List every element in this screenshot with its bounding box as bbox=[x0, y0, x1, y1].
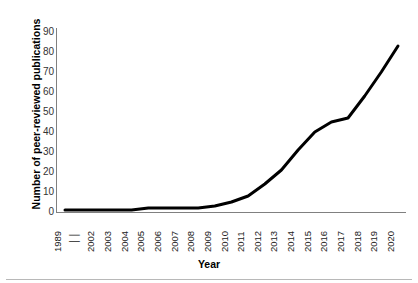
x-tick-label: 2017 bbox=[335, 218, 346, 252]
y-tick-label: 80 bbox=[32, 47, 54, 57]
y-tick-label: 60 bbox=[32, 87, 54, 97]
x-tick-label: 2009 bbox=[202, 218, 213, 252]
y-tick-label: 70 bbox=[32, 67, 54, 77]
x-tick-label: 2012 bbox=[252, 218, 263, 252]
x-tick-label: 1989 bbox=[52, 218, 63, 252]
x-tick-label: 2006 bbox=[152, 218, 163, 252]
x-axis-tick-labels: 1989││2002200320042005200620072008200920… bbox=[0, 214, 418, 254]
y-tick-label: 50 bbox=[32, 107, 54, 117]
y-tick-label: 40 bbox=[32, 127, 54, 137]
x-tick-label: 2010 bbox=[219, 218, 230, 252]
x-tick-label: 2018 bbox=[352, 218, 363, 252]
y-tick-label: 10 bbox=[32, 187, 54, 197]
y-tick-label: 20 bbox=[32, 167, 54, 177]
footer-divider bbox=[6, 279, 412, 280]
x-tick-label: 2020 bbox=[385, 218, 396, 252]
y-tick-label: 90 bbox=[32, 27, 54, 37]
x-tick-label: 2005 bbox=[135, 218, 146, 252]
x-tick-label: 2013 bbox=[268, 218, 279, 252]
line-chart: Number of peer-reviewed publications 908… bbox=[0, 0, 418, 283]
x-tick-label: 2002 bbox=[85, 218, 96, 252]
x-tick-label: 2016 bbox=[318, 218, 329, 252]
x-tick-label: 2019 bbox=[368, 218, 379, 252]
x-tick-label: 2015 bbox=[302, 218, 313, 252]
x-axis-title: Year bbox=[0, 258, 418, 270]
x-tick-label: 2011 bbox=[235, 218, 246, 252]
x-tick-label: 2007 bbox=[169, 218, 180, 252]
y-axis-line bbox=[56, 28, 57, 213]
y-tick-label: 30 bbox=[32, 147, 54, 157]
x-axis-break-marker: ││ bbox=[69, 210, 80, 244]
x-tick-label: 2008 bbox=[185, 218, 196, 252]
x-tick-label: 2014 bbox=[285, 218, 296, 252]
x-tick-label: 2003 bbox=[102, 218, 113, 252]
x-tick-label: 2004 bbox=[119, 218, 130, 252]
x-axis-line bbox=[56, 212, 406, 213]
